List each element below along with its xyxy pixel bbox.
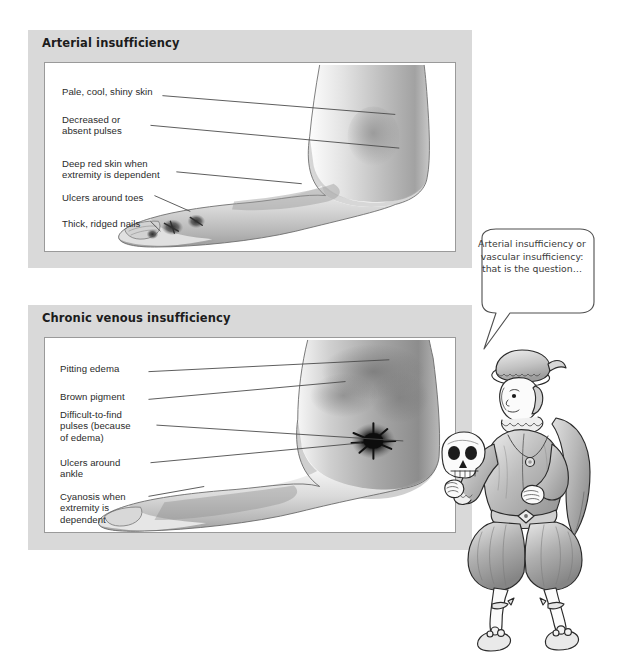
label-pitting-edema: Pitting edema [60,363,119,374]
illustration-page: Arterial insufficiency [0,0,632,655]
label-difficult-to-find-pulses: Difficult-to-find pulses (because of ede… [60,409,131,443]
hamlet-figure-illustration [438,340,632,652]
label-pale-cool-shiny-skin: Pale, cool, shiny skin [62,86,153,97]
label-ulcers-around-toes: Ulcers around toes [62,192,143,203]
label-thick-ridged-nails: Thick, ridged nails [62,218,140,229]
speech-bubble-text: Arterial insufficiency or vascular insuf… [478,238,586,276]
label-brown-pigment: Brown pigment [60,391,125,402]
label-decreased-or-absent-pulses: Decreased or absent pulses [62,114,122,137]
label-cyanosis-when-extremity-dependent: Cyanosis when extremity is dependent [60,491,126,525]
panel-arterial-title: Arterial insufficiency [42,36,180,50]
panel-arterial-header: Arterial insufficiency [28,30,472,56]
panel-venous-header: Chronic venous insufficiency [28,305,472,331]
speech-bubble: Arterial insufficiency or vascular insuf… [466,228,598,350]
panel-chronic-venous-insufficiency: Chronic venous insufficiency [28,305,472,550]
panel-venous-title: Chronic venous insufficiency [42,311,231,325]
label-deep-red-skin: Deep red skin when extremity is dependen… [62,158,160,181]
label-ulcers-around-ankle: Ulcers around ankle [60,457,120,480]
panel-arterial-insufficiency: Arterial insufficiency [28,30,472,268]
hamlet-figure [438,340,632,652]
